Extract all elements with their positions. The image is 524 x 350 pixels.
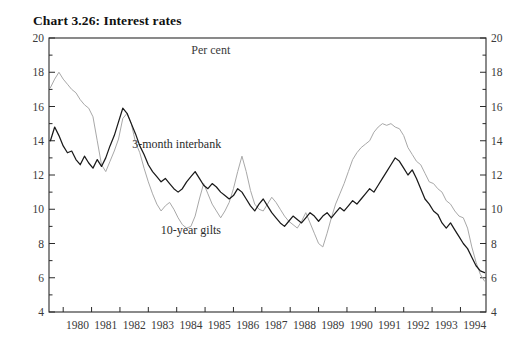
- series-label-interbank: 3-month interbank: [132, 137, 221, 151]
- y-axis-tick-label-left: 6: [38, 272, 44, 284]
- interest-rates-line-chart: 4466881010121214141616181820201980198119…: [0, 0, 524, 350]
- x-axis-tick-label: 1985: [208, 319, 231, 331]
- y-axis-tick-label-right: 18: [491, 66, 503, 78]
- y-axis-tick-label-left: 10: [33, 203, 45, 215]
- x-axis-tick-label: 1989: [321, 319, 344, 331]
- x-axis-tick-label: 1980: [66, 319, 89, 331]
- y-axis-tick-label-right: 12: [491, 169, 503, 181]
- x-axis-tick-label: 1981: [94, 319, 117, 331]
- y-axis-tick-label-right: 10: [491, 203, 503, 215]
- series-line-interbank: [50, 72, 484, 281]
- x-axis-tick-label: 1994: [463, 319, 486, 331]
- y-axis-tick-label-left: 8: [38, 238, 44, 250]
- plot-frame: [49, 38, 486, 312]
- x-axis-tick-label: 1986: [236, 319, 259, 331]
- y-axis-tick-label-left: 16: [33, 101, 45, 113]
- x-axis-tick-label: 1983: [151, 319, 174, 331]
- series-line-gilts: [50, 108, 484, 272]
- chart-container: Chart 3.26: Interest rates 4466881010121…: [0, 0, 524, 350]
- x-axis-tick-label: 1982: [123, 319, 146, 331]
- y-axis-tick-label-right: 14: [491, 135, 503, 147]
- x-axis-tick-label: 1988: [293, 319, 316, 331]
- y-axis-tick-label-left: 20: [33, 32, 45, 44]
- y-axis-tick-label-right: 4: [491, 306, 497, 318]
- x-axis-tick-label: 1984: [179, 319, 202, 331]
- y-axis-tick-label-right: 6: [491, 272, 497, 284]
- y-axis-tick-label-right: 8: [491, 238, 497, 250]
- y-axis-tick-label-left: 4: [38, 306, 44, 318]
- x-axis-tick-label: 1990: [350, 319, 373, 331]
- x-axis-tick-label: 1993: [435, 319, 458, 331]
- y-axis-tick-label-right: 20: [491, 32, 503, 44]
- y-axis-tick-label-right: 16: [491, 101, 503, 113]
- x-axis-tick-label: 1987: [265, 319, 288, 331]
- y-axis-tick-label-left: 18: [33, 66, 45, 78]
- unit-label: Per cent: [191, 43, 231, 57]
- x-axis-tick-label: 1992: [406, 319, 429, 331]
- x-axis-tick-label: 1991: [378, 319, 401, 331]
- y-axis-tick-label-left: 12: [33, 169, 45, 181]
- series-label-gilts: 10-year gilts: [161, 223, 222, 237]
- y-axis-tick-label-left: 14: [33, 135, 45, 147]
